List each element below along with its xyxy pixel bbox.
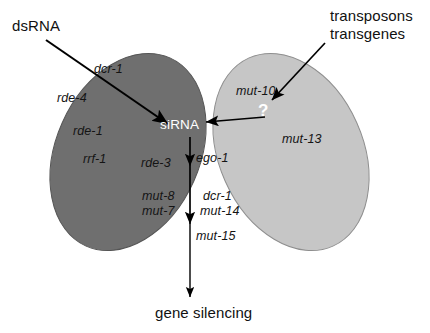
gene-label-mut-10: mut-10 <box>236 85 276 98</box>
gene-label-mut-13: mut-13 <box>282 133 322 146</box>
label-gene-silencing: gene silencing <box>155 305 252 320</box>
gene-label-rde-4: rde-4 <box>57 92 87 105</box>
gene-label-mut-15: mut-15 <box>196 230 236 243</box>
figure-canvas: dsRNA transposons transgenes dcr-1 rde-4… <box>0 0 430 333</box>
gene-label-mut-14: mut-14 <box>200 205 240 218</box>
label-transposons: transposons <box>330 8 413 23</box>
label-unknown-question-mark: ? <box>258 102 268 119</box>
label-sirna: siRNA <box>160 118 199 132</box>
gene-label-mut-8: mut-8 <box>142 190 174 203</box>
label-dsrna: dsRNA <box>12 18 60 33</box>
venn-diagram-graphic <box>0 0 430 333</box>
gene-label-rde-3: rde-3 <box>141 157 171 170</box>
gene-label-ego-1: ego-1 <box>196 152 228 165</box>
gene-label-rde-1: rde-1 <box>73 125 103 138</box>
gene-label-dcr-1-top: dcr-1 <box>94 63 123 76</box>
gene-label-rrf-1: rrf-1 <box>83 153 106 166</box>
label-transgenes: transgenes <box>330 26 405 41</box>
gene-label-dcr-1-mid: dcr-1 <box>203 190 232 203</box>
gene-label-mut-7: mut-7 <box>142 205 174 218</box>
